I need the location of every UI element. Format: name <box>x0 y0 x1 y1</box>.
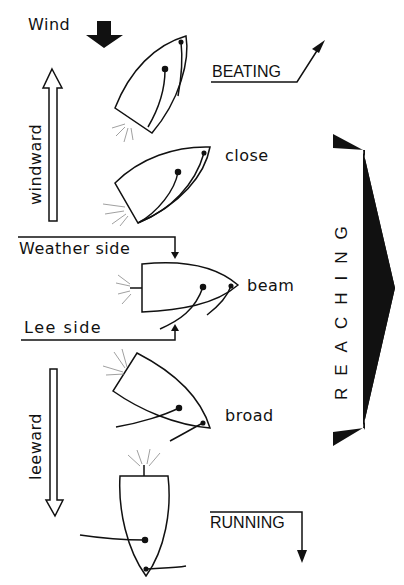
point-close-label: close <box>225 148 269 164</box>
point-running-label: RUNNING <box>210 515 285 531</box>
leeward-arrow-icon <box>46 369 63 516</box>
boat-close-icon <box>103 147 210 226</box>
weather-side-label: Weather side <box>19 241 130 257</box>
windward-label: windward <box>28 124 44 205</box>
wind-label: Wind <box>28 17 70 33</box>
boat-running-icon <box>80 449 186 576</box>
boat-beating-icon <box>112 36 187 142</box>
point-beating-label: BEATING <box>212 64 281 80</box>
point-broad-label: broad <box>225 408 274 424</box>
boat-beam-icon <box>116 263 238 329</box>
windward-arrow-icon <box>43 69 62 221</box>
wind-arrow-icon <box>86 21 123 48</box>
reaching-label: REACHING <box>333 214 350 400</box>
point-beam-label: beam <box>247 278 294 294</box>
boat-broad-icon <box>103 349 210 441</box>
leeward-label: leeward <box>28 413 44 480</box>
lee-side-label: Lee side <box>24 320 102 336</box>
